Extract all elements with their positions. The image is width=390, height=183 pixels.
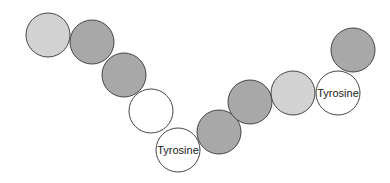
residue-circle — [26, 13, 70, 57]
residue-label: Tyrosine — [317, 87, 359, 99]
residue-circle — [102, 53, 146, 97]
residue-dark — [70, 20, 114, 64]
residue-tyrosine: Tyrosine — [316, 71, 360, 115]
residue-tyrosine: Tyrosine — [156, 128, 200, 172]
residue-dark — [331, 28, 375, 72]
residue-light — [271, 71, 315, 115]
residue-circle — [129, 89, 173, 133]
protein-chain-diagram: TyrosineTyrosine — [0, 0, 390, 183]
residue-circle — [271, 71, 315, 115]
residue-light — [26, 13, 70, 57]
residue-circle — [331, 28, 375, 72]
residue-white — [129, 89, 173, 133]
residue-circle — [70, 20, 114, 64]
residue-dark — [102, 53, 146, 97]
residue-circle — [228, 80, 272, 124]
residue-dark — [228, 80, 272, 124]
residue-label: Tyrosine — [157, 144, 199, 156]
